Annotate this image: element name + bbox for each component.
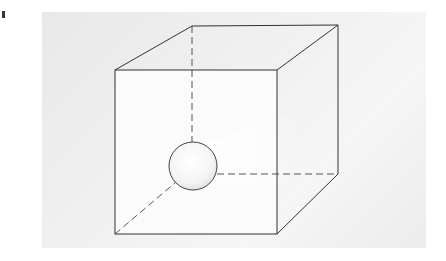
- top-right-depth-edge: [277, 25, 338, 70]
- top-left-depth-edge: [115, 26, 192, 70]
- back-top-edge: [192, 25, 338, 26]
- cube-sphere-diagram: [0, 0, 446, 261]
- bottom-right-depth-edge: [277, 174, 338, 234]
- sphere: [169, 142, 217, 190]
